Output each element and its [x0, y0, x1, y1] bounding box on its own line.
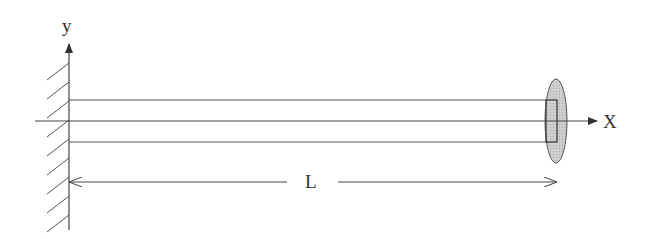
cantilever-beam-diagram: y X L: [0, 0, 649, 239]
y-axis-label: y: [62, 15, 72, 36]
length-label: L: [305, 171, 317, 192]
diagram-svg: y X L: [0, 0, 649, 239]
x-axis-label: X: [603, 111, 617, 132]
fixed-support-hatching: [47, 63, 69, 232]
